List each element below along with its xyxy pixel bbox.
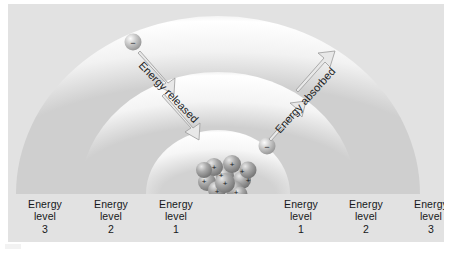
level-label-right-3: Energy level 3 [391,198,444,235]
level-word-energy: Energy [414,198,444,210]
level-word-energy: Energy [28,198,62,210]
level-word-level: level [165,210,187,222]
scan-artifact [5,244,21,249]
diagram-panel: + + + + + + + + + − − [8,4,444,242]
level-word-level: level [355,210,377,222]
svg-text:+: + [202,177,207,186]
level-word-energy: Energy [159,198,193,210]
svg-text:+: + [219,171,224,180]
level-word-energy: Energy [349,198,383,210]
electron-outer-left: − [125,34,142,51]
level-word-level: level [420,210,442,222]
level-word-energy: Energy [284,198,318,210]
level-word-energy: Energy [94,198,128,210]
level-word-level: level [34,210,56,222]
level-label-left-1: Energy level 1 [136,198,216,235]
svg-text:+: + [223,179,228,188]
energy-level-diagram: + + + + + + + + + − − [0,0,452,255]
level-number: 1 [136,223,216,235]
electron-inner-right: − [259,138,276,155]
svg-text:−: − [264,142,269,152]
svg-text:−: − [130,38,135,48]
svg-text:+: + [240,167,245,176]
level-number: 3 [391,223,444,235]
level-word-level: level [290,210,312,222]
svg-text:+: + [212,163,217,172]
level-word-level: level [100,210,122,222]
svg-text:+: + [246,176,251,185]
svg-text:+: + [230,160,235,169]
